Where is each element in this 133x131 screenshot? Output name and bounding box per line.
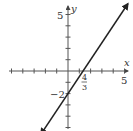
line-graph: x y 5 5 −2 4 3: [0, 0, 133, 131]
y-axis-label: y: [70, 3, 77, 14]
x-axis-label: x: [124, 57, 130, 68]
data-line: [41, 4, 128, 131]
x-intercept-numerator: 4: [82, 73, 87, 82]
y-intercept-label: −2: [50, 89, 65, 100]
x-tick-label-5: 5: [121, 75, 127, 86]
y-tick-label-5: 5: [57, 10, 63, 21]
x-intercept-denominator: 3: [82, 83, 87, 92]
